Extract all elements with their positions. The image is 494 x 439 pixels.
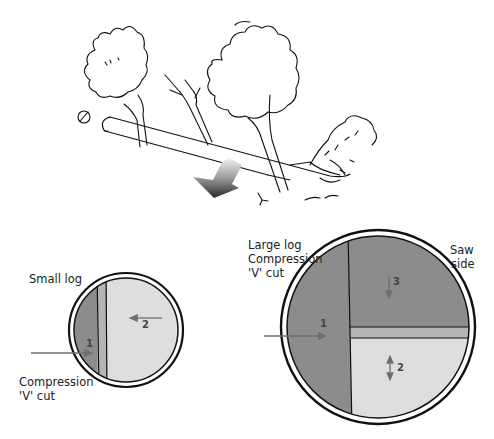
small-log-cross-section xyxy=(31,270,187,390)
small-log-cut-label-2: 'V' cut xyxy=(19,389,55,404)
large-log-label-2: Compression xyxy=(248,252,323,267)
diagram-canvas xyxy=(0,0,494,439)
large-log-step3-number: 3 xyxy=(393,276,400,287)
fall-direction-arrow xyxy=(193,158,242,198)
saw-side-label-1: Saw xyxy=(450,243,474,258)
small-log-step2-number: 2 xyxy=(142,319,149,330)
small-log-label: Small log xyxy=(29,272,82,287)
tree-right-fallen-crown xyxy=(305,116,377,200)
large-log-step1-number: 1 xyxy=(320,318,327,329)
large-log-step2-number: 2 xyxy=(397,362,404,373)
saw-side-label-2: side xyxy=(451,257,475,272)
small-log-cut-label-1: Compression xyxy=(19,375,94,390)
small-log-tension-zone xyxy=(107,270,187,390)
tree-dead xyxy=(165,75,212,145)
large-log-label-3: 'V' cut xyxy=(248,266,284,281)
small-log-step1-number: 1 xyxy=(86,338,93,349)
tree-left xyxy=(84,26,147,147)
large-log-label-1: Large log xyxy=(248,238,302,253)
